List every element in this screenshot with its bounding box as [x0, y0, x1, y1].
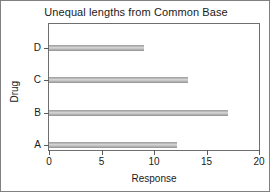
- y-axis-title: Drug: [9, 83, 20, 103]
- chart-figure: Unequal lengths from Common Base Drug D …: [0, 0, 270, 192]
- x-tick-label: 5: [99, 157, 105, 167]
- x-axis-title: Response: [48, 173, 260, 184]
- bar-drug-a: [49, 142, 177, 148]
- bar-drug-d: [49, 45, 144, 51]
- x-tick-mark: [207, 150, 208, 155]
- x-tick-label: 10: [148, 157, 159, 167]
- x-tick-label: 0: [46, 157, 52, 167]
- chart-title: Unequal lengths from Common Base: [1, 6, 270, 18]
- y-tick-label-b: B: [34, 108, 41, 118]
- y-tick-label-c: C: [34, 75, 41, 85]
- y-tick-label-a: A: [34, 140, 41, 150]
- y-tick-label-d: D: [34, 43, 41, 53]
- x-tick-label: 20: [253, 157, 264, 167]
- bar-drug-b: [49, 110, 228, 116]
- x-tick-mark: [154, 150, 155, 155]
- x-tick-mark: [259, 150, 260, 155]
- plot-area: D C B A 05101520: [48, 23, 260, 151]
- bar-drug-c: [49, 77, 188, 83]
- x-tick-label: 15: [201, 157, 212, 167]
- x-tick-mark: [49, 150, 50, 155]
- x-tick-mark: [102, 150, 103, 155]
